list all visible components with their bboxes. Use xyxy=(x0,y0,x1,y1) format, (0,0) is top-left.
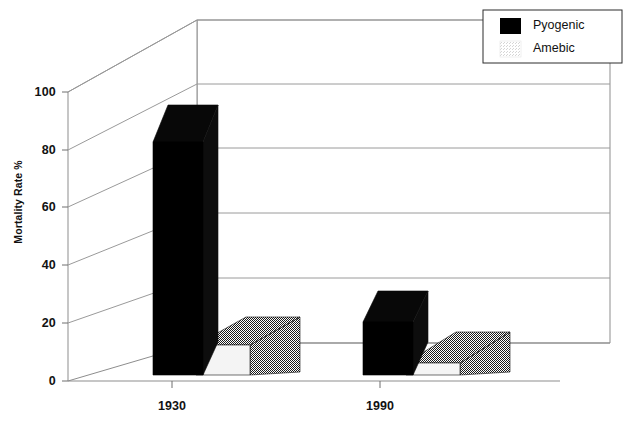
x-axis-ticks xyxy=(172,381,380,388)
legend-swatch-amebic xyxy=(500,41,521,57)
y-axis-ticks xyxy=(62,92,68,381)
chart-container: 100 80 60 40 20 0 Mortality Rate % 1930 … xyxy=(0,0,631,431)
y-tick-label-100: 100 xyxy=(20,85,56,99)
y-tick-label-20: 20 xyxy=(20,316,56,330)
bar-pyogenic-1990 xyxy=(363,291,428,375)
bar-pyogenic-1930 xyxy=(153,105,218,375)
x-tick-label-1930: 1930 xyxy=(142,399,202,413)
legend-label-pyogenic: Pyogenic xyxy=(533,18,584,32)
bar-chart-3d xyxy=(0,0,631,431)
x-tick-label-1990: 1990 xyxy=(350,399,410,413)
y-tick-label-80: 80 xyxy=(20,143,56,157)
y-axis-title: Mortality Rate % xyxy=(12,152,24,252)
y-tick-label-0: 0 xyxy=(20,374,56,388)
legend-label-amebic: Amebic xyxy=(533,41,575,55)
y-tick-label-60: 60 xyxy=(20,200,56,214)
y-tick-label-40: 40 xyxy=(20,258,56,272)
legend-swatch-pyogenic xyxy=(500,18,521,34)
